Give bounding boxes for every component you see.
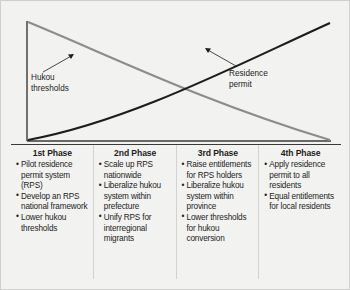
bullet-icon: • [182,160,185,171]
phase-table: 1st Phase •Pilot residence permit system… [11,145,341,279]
hukou-leader-line [43,55,73,72]
list-item-text: Unify RPS for interregional migrants [104,213,152,243]
bullet-icon: • [99,212,102,223]
list-item-text: Scale up RPS nationwide [104,160,153,180]
list-item-text: Develop an RPS national framework [21,192,87,212]
list-item: •Pilot residence permit system (RPS) [16,160,89,192]
list-item-text: Raise entitlements for RPS holders [187,160,252,180]
hukou-annotation-line2: thresholds [31,84,69,95]
residence-arrowhead-icon [205,48,211,53]
phase-4-list: •Apply residence permit to all residents… [264,160,337,213]
hukou-thresholds-curve [28,22,330,140]
list-item: •Liberalize hukou system within prefectu… [99,181,172,213]
bullet-icon: • [264,160,267,171]
residence-leader-line [206,49,236,66]
residence-annotation-line1: Residence [229,69,268,80]
hukou-annotation-line1: Hukou [31,73,69,84]
list-item-text: Lower thresholds for hukou conversion [187,213,247,243]
phase-column-3: 3rd Phase •Raise entitlements for RPS ho… [176,145,259,279]
list-item: •Apply residence permit to all residents [264,160,337,192]
phase-2-header: 2nd Phase [99,148,172,158]
phase-column-4: 4th Phase •Apply residence permit to all… [258,145,341,279]
phase-column-2: 2nd Phase •Scale up RPS nationwide •Libe… [93,145,176,279]
list-item: •Unify RPS for interregional migrants [99,213,172,245]
bullet-icon: • [16,160,19,171]
list-item: •Lower thresholds for hukou conversion [182,213,255,245]
list-item-text: Pilot residence permit system (RPS) [21,160,72,190]
bullet-icon: • [16,191,19,202]
list-item-text: Liberalize hukou system within province [187,181,244,211]
bullet-icon: • [264,191,267,202]
list-item-text: Liberalize hukou system within prefectur… [104,181,161,211]
list-item-text: Apply residence permit to all residents [269,160,325,190]
hukou-arrowhead-icon [68,54,74,59]
phase-column-1: 1st Phase •Pilot residence permit system… [11,145,93,279]
list-item: •Develop an RPS national framework [16,192,89,213]
phase-4-header: 4th Phase [264,148,337,158]
list-item: •Raise entitlements for RPS holders [182,160,255,181]
chart-area: Hukou thresholds Residence permit [1,1,350,144]
list-item-text: Equal entitlements for local residents [269,192,334,212]
residence-annotation-line2: permit [229,80,268,91]
residence-permit-annotation: Residence permit [229,69,268,90]
list-item: •Equal entitlements for local residents [264,192,337,213]
bullet-icon: • [99,181,102,192]
list-item-text: Lower hukou thresholds [21,213,66,233]
bullet-icon: • [182,212,185,223]
list-item: •Scale up RPS nationwide [99,160,172,181]
phase-3-header: 3rd Phase [182,148,255,158]
bullet-icon: • [99,160,102,171]
list-item: •Liberalize hukou system within province [182,181,255,213]
phase-3-list: •Raise entitlements for RPS holders •Lib… [182,160,255,245]
phase-1-header: 1st Phase [16,148,89,158]
hukou-thresholds-annotation: Hukou thresholds [31,73,69,94]
bullet-icon: • [182,181,185,192]
phase-2-list: •Scale up RPS nationwide •Liberalize huk… [99,160,172,245]
phase-diagram-figure: Hukou thresholds Residence permit 1st Ph… [0,0,350,290]
phase-1-list: •Pilot residence permit system (RPS) •De… [16,160,89,234]
list-item: •Lower hukou thresholds [16,213,89,234]
bullet-icon: • [16,212,19,223]
